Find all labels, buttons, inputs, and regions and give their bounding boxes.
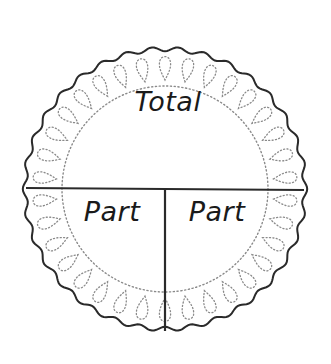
petal-decoration xyxy=(56,250,81,273)
petal-decoration xyxy=(180,295,195,320)
petal-decoration xyxy=(199,289,218,315)
petal-decoration xyxy=(199,64,218,90)
petal-decoration xyxy=(91,74,113,100)
petal-decoration xyxy=(56,105,81,128)
petal-decoration xyxy=(180,58,195,83)
part-right-label: Part xyxy=(189,198,246,225)
petal-decoration xyxy=(218,279,240,305)
petal-decoration xyxy=(44,125,70,145)
petal-decoration xyxy=(268,213,294,230)
petal-decoration xyxy=(260,233,286,253)
petal-decoration xyxy=(218,74,240,100)
petal-decoration xyxy=(112,289,131,315)
petal-decoration xyxy=(249,105,274,128)
part-left-label: Part xyxy=(84,198,141,225)
petal-decoration xyxy=(33,193,57,206)
petal-decoration xyxy=(260,125,286,145)
petal-decoration xyxy=(33,171,57,184)
petal-decoration xyxy=(234,266,258,291)
petal-decoration xyxy=(91,279,113,305)
petal-decoration xyxy=(36,147,62,164)
petal-decoration xyxy=(234,87,258,112)
petal-decoration xyxy=(44,233,70,253)
petal-decoration xyxy=(135,58,150,83)
petal-decoration xyxy=(159,57,170,80)
part-whole-diagram xyxy=(0,0,331,364)
petal-decoration xyxy=(273,193,297,206)
petal-decoration xyxy=(72,87,96,112)
petal-decoration xyxy=(72,266,96,291)
petal-decoration xyxy=(112,64,131,90)
total-label: Total xyxy=(135,88,202,115)
petal-decoration xyxy=(249,250,274,273)
petal-decoration xyxy=(135,295,150,320)
petal-decoration xyxy=(273,171,297,184)
petal-decoration xyxy=(268,147,294,164)
petal-decoration xyxy=(36,213,62,230)
